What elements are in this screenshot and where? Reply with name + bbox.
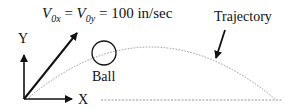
velocity-vector-arrow (24, 33, 77, 99)
y-axis-label: Y (18, 32, 28, 46)
velocity-equation: V0x = V0y = 100 in/sec (42, 6, 172, 26)
ball-label: Ball (92, 70, 115, 84)
trajectory-pointer-arrow (216, 30, 225, 58)
x-axis-label: X (78, 93, 88, 107)
trajectory-label: Trajectory (214, 10, 272, 24)
ball-circle (92, 41, 116, 65)
trajectory-curve (27, 47, 275, 99)
